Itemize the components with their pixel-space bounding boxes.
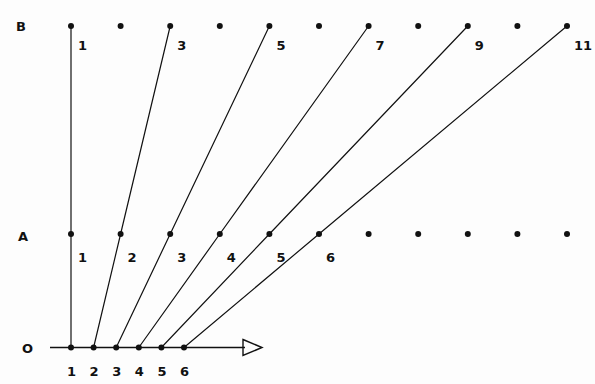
point-label-o-1: 1 [67,364,76,379]
axis-group [50,340,262,356]
row-label-b: B [16,19,26,34]
point-label-a-1: 1 [78,250,87,265]
point-label-o-2: 2 [90,364,99,379]
ray-6 [184,26,567,348]
row-label-a: A [18,229,29,244]
point-label-o-4: 4 [135,364,144,379]
point-dot-a-1 [68,231,74,237]
point-dot-a-9 [465,231,471,237]
point-dot-b-7 [366,23,372,29]
point-dot-b-9 [465,23,471,29]
ray-5 [161,26,467,348]
ray-2 [94,26,171,348]
row-label-o: O [22,341,34,356]
point-dot-b-5 [266,23,272,29]
ray-4 [139,26,369,348]
dots-group [68,23,570,351]
point-label-b-1: 1 [78,38,87,53]
point-label-o-5: 5 [157,364,166,379]
point-dot-a-8 [415,231,421,237]
point-dot-b-1 [68,23,74,29]
point-dot-a-2 [118,231,124,237]
axis-arrowhead-icon [243,340,262,356]
geometry-figure: B A O 1357911123456123456 [0,0,595,384]
point-dot-b-2 [118,23,124,29]
point-label-b-3: 3 [177,38,186,53]
point-dot-o-3 [113,345,119,351]
figure-canvas [0,0,595,384]
point-dot-o-4 [136,345,142,351]
point-dot-b-8 [415,23,421,29]
point-dot-a-4 [217,231,223,237]
point-label-o-3: 3 [112,364,121,379]
point-label-a-2: 2 [128,250,137,265]
point-label-o-6: 6 [180,364,189,379]
point-dot-b-4 [217,23,223,29]
point-dot-a-5 [266,231,272,237]
point-dot-b-10 [514,23,520,29]
point-dot-b-11 [564,23,570,29]
point-dot-o-2 [91,345,97,351]
point-dot-o-1 [68,345,74,351]
point-label-b-7: 7 [376,38,385,53]
rays-group [71,26,567,348]
point-dot-a-11 [564,231,570,237]
point-dot-b-3 [167,23,173,29]
point-dot-a-3 [167,231,173,237]
point-label-b-9: 9 [475,38,484,53]
point-label-a-6: 6 [326,250,335,265]
point-label-b-5: 5 [276,38,285,53]
point-label-a-5: 5 [276,250,285,265]
point-label-a-4: 4 [227,250,236,265]
point-dot-a-10 [514,231,520,237]
point-dot-a-7 [366,231,372,237]
point-dot-o-5 [158,345,164,351]
point-dot-a-6 [316,231,322,237]
point-label-b-11: 11 [574,38,592,53]
point-dot-o-6 [181,345,187,351]
point-dot-b-6 [316,23,322,29]
ray-3 [116,26,269,348]
point-label-a-3: 3 [177,250,186,265]
